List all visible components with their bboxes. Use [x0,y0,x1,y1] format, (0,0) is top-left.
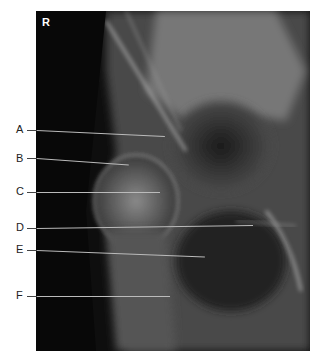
label-c: C [16,186,24,197]
radiograph-image [36,11,310,351]
label-e: E [16,244,23,255]
label-a: A [16,124,23,135]
leader-line-c [27,192,37,193]
label-b: B [16,153,23,164]
leader-line-a [27,130,37,131]
label-f: F [16,290,23,301]
label-d: D [16,222,24,233]
leader-line-c-inner [37,192,160,193]
side-marker: R [42,16,50,28]
leader-line-e [27,250,37,251]
leader-line-f [27,296,37,297]
leader-line-f-inner [37,296,170,297]
radiograph-graphic [36,11,310,351]
leader-line-d [27,228,37,229]
leader-line-b [27,158,37,159]
